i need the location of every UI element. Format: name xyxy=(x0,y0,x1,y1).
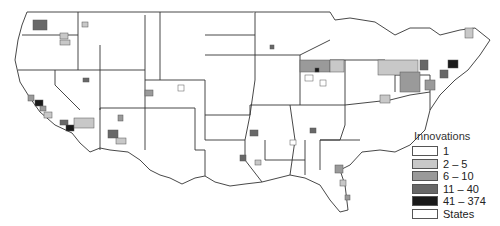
legend-title: Innovations xyxy=(414,130,500,142)
legend-label: 6 – 10 xyxy=(443,170,474,182)
legend-swatch xyxy=(412,159,438,169)
legend-label: 2 – 5 xyxy=(443,158,467,170)
legend-label: 41 – 374 xyxy=(443,195,486,207)
legend-swatch xyxy=(412,209,438,219)
legend: Innovations 1 2 – 5 6 – 10 11 – 40 41 – … xyxy=(412,130,500,220)
legend-item-6-10: 6 – 10 xyxy=(412,170,500,183)
legend-label: 11 – 40 xyxy=(443,183,479,195)
legend-item-41-374: 41 – 374 xyxy=(412,195,500,208)
legend-item-11-40: 11 – 40 xyxy=(412,183,500,196)
legend-swatch xyxy=(412,171,438,181)
legend-label: States xyxy=(443,208,474,220)
legend-item-2-5: 2 – 5 xyxy=(412,158,500,171)
legend-swatch xyxy=(412,146,438,156)
legend-item-states: States xyxy=(412,208,500,221)
legend-swatch xyxy=(412,184,438,194)
legend-swatch xyxy=(412,196,438,206)
legend-item-1: 1 xyxy=(412,145,500,158)
legend-label: 1 xyxy=(443,145,449,157)
